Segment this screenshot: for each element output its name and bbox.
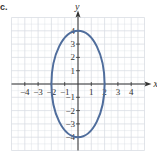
y-tick-label: 1 xyxy=(71,66,76,76)
x-axis-label: x xyxy=(153,78,158,89)
x-tick-label: 3 xyxy=(116,87,121,97)
x-tick-label: 1 xyxy=(89,87,94,97)
ellipse-graph: xy−4−3−2−11234−4−3−2−11234 xyxy=(0,0,157,154)
x-tick-label: 4 xyxy=(129,87,134,97)
x-tick-label: −4 xyxy=(20,87,30,97)
tick-labels: xy−4−3−2−11234−4−3−2−11234 xyxy=(20,1,157,143)
y-axis-label: y xyxy=(74,1,80,12)
x-tick-label: −3 xyxy=(33,87,43,97)
y-tick-label: −3 xyxy=(65,119,75,129)
y-tick-label: −1 xyxy=(65,92,75,102)
y-tick-label: 2 xyxy=(71,52,76,62)
y-tick-label: −2 xyxy=(65,106,75,116)
y-tick-label: 3 xyxy=(71,39,76,49)
